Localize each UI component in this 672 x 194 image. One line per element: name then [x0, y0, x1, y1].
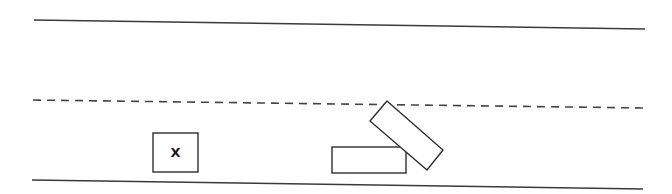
road-center-divider	[33, 100, 645, 108]
vehicle-x-label: X	[170, 145, 180, 160]
accident-diagram: X	[0, 0, 672, 194]
road-top-edge	[34, 20, 645, 29]
vehicle-parked	[332, 147, 406, 173]
road-bottom-edge	[32, 180, 643, 189]
vehicle-x: X	[153, 133, 198, 172]
